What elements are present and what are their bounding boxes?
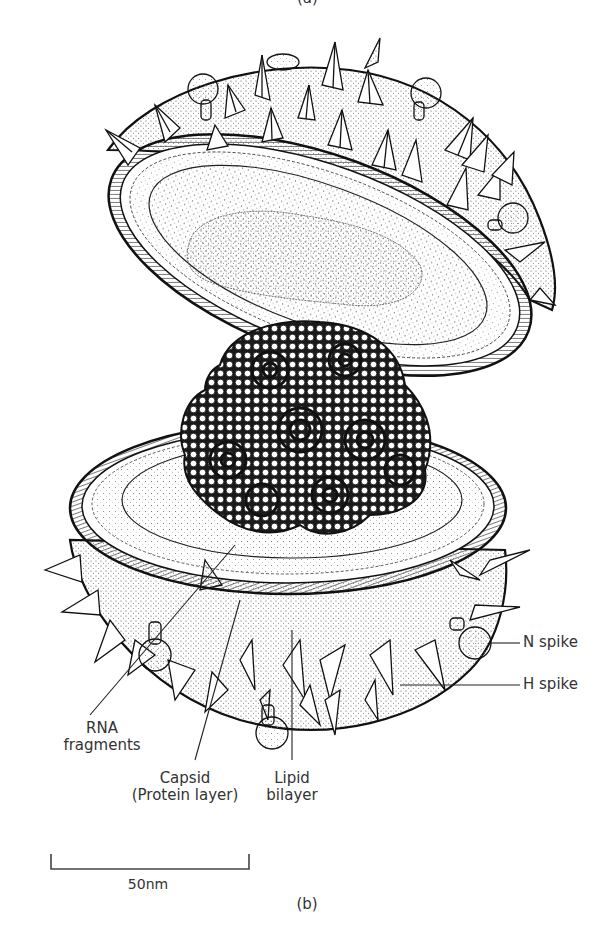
label-rna-line1: RNA <box>52 720 152 737</box>
scale-bar <box>51 854 249 869</box>
scale-bar-label: 50nm <box>100 876 196 893</box>
label-n-spike: N spike <box>523 634 578 651</box>
label-capsid-line1: Capsid <box>110 770 260 787</box>
label-capsid: Capsid (Protein layer) <box>110 770 260 804</box>
panel-a-label: (a) <box>297 0 318 7</box>
label-rna-fragments: RNA fragments <box>52 720 152 754</box>
label-rna-line2: fragments <box>52 737 152 754</box>
label-lipid-line1: Lipid <box>252 770 332 787</box>
label-lipid-bilayer: Lipid bilayer <box>252 770 332 804</box>
label-h-spike: H spike <box>523 676 578 693</box>
panel-b-label: (b) <box>282 896 332 913</box>
label-lipid-line2: bilayer <box>252 787 332 804</box>
label-capsid-line2: (Protein layer) <box>110 787 260 804</box>
